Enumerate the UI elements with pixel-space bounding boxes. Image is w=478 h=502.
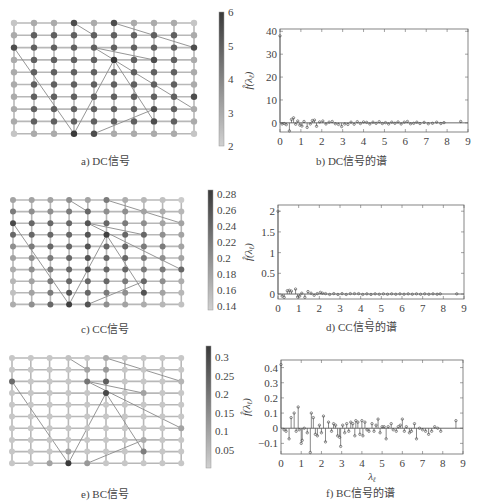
- x-axis-label: λℓ: [367, 470, 376, 484]
- graph-node: [85, 209, 91, 215]
- x-tick-label: 8: [444, 135, 450, 147]
- graph-node: [47, 355, 53, 361]
- graph-node: [103, 425, 109, 431]
- graph-node: [122, 197, 128, 203]
- graph-node: [178, 367, 184, 373]
- graph-node: [159, 414, 165, 420]
- graph-node: [51, 57, 57, 63]
- y-tick-label: 1.5: [261, 226, 275, 238]
- graph-node: [65, 414, 71, 420]
- graph-node: [31, 57, 37, 63]
- axes-frame: [281, 360, 463, 454]
- graph-node: [171, 69, 177, 75]
- graph-node: [91, 94, 97, 100]
- graph-node: [160, 209, 166, 215]
- x-tick-label: 0: [278, 457, 284, 469]
- graph-node: [31, 81, 37, 87]
- graph-node: [9, 390, 15, 396]
- graph-node: [104, 255, 110, 261]
- graph-node: [84, 402, 90, 408]
- x-tick-label: 4: [358, 302, 364, 314]
- graph-node: [104, 243, 110, 249]
- graph-node: [122, 278, 128, 284]
- graph-node: [104, 290, 110, 296]
- graph-node: [66, 232, 72, 238]
- x-tick-label: 9: [461, 302, 467, 314]
- graph-node: [122, 378, 128, 384]
- graph-node: [85, 267, 91, 273]
- x-tick-label: 1: [298, 457, 304, 469]
- graph-node: [104, 232, 110, 238]
- caption-d: d) CC信号的谱: [326, 318, 397, 334]
- graph-node: [85, 290, 91, 296]
- x-tick-label: 3: [337, 302, 343, 314]
- graph-node: [84, 414, 90, 420]
- graph-node: [104, 267, 110, 273]
- graph-node: [11, 44, 17, 50]
- graph-node: [131, 69, 137, 75]
- graph-node: [178, 414, 184, 420]
- graph-node: [66, 209, 72, 215]
- graph-node: [47, 378, 53, 384]
- x-tick-label: 2: [319, 135, 325, 147]
- graph-node: [31, 106, 37, 112]
- graph-node: [10, 232, 16, 238]
- graph-node: [66, 290, 72, 296]
- graph-node: [131, 131, 137, 137]
- graph-node: [141, 425, 147, 431]
- graph-node: [47, 390, 53, 396]
- x-tick-label: 7: [420, 457, 426, 469]
- graph-node: [11, 94, 17, 100]
- graph-node: [28, 402, 34, 408]
- graph-node: [47, 437, 53, 443]
- y-axis-label: f̂(λℓ): [242, 71, 256, 89]
- graph-node: [66, 278, 72, 284]
- graph-node: [111, 44, 117, 50]
- graph-node: [85, 220, 91, 226]
- x-tick-label: 5: [379, 457, 385, 469]
- graph-node: [31, 69, 37, 75]
- graph-node: [11, 118, 17, 124]
- graph-node: [11, 20, 17, 26]
- graph-node: [159, 449, 165, 455]
- graph-node: [9, 402, 15, 408]
- graph-node: [141, 355, 147, 361]
- graph-node: [191, 44, 197, 50]
- graph-node: [159, 402, 165, 408]
- y-tick-label: 0.3: [264, 377, 278, 389]
- graph-node: [29, 290, 35, 296]
- graph-node: [141, 232, 147, 238]
- y-tick-label: 10: [266, 94, 278, 106]
- graph-node: [122, 209, 128, 215]
- graph-node: [171, 131, 177, 137]
- graph-node: [178, 355, 184, 361]
- colorbar-tick-label: 0.05: [215, 444, 235, 456]
- graph-node: [28, 437, 34, 443]
- graph-node: [84, 449, 90, 455]
- graph-node: [9, 460, 15, 466]
- y-axis: 010203040f̂(λℓ): [242, 25, 468, 129]
- stem-marker: [370, 293, 372, 295]
- colorbar-tick-label: 5: [228, 40, 234, 52]
- caption-c: c) CC信号: [81, 320, 129, 336]
- graph-node: [11, 57, 17, 63]
- graph-node: [91, 44, 97, 50]
- graph-node: [122, 414, 128, 420]
- graph-node: [160, 267, 166, 273]
- graph-node: [171, 44, 177, 50]
- graph-node: [178, 449, 184, 455]
- graph-node: [29, 267, 35, 273]
- graph-node: [66, 301, 72, 307]
- graph-node: [29, 220, 35, 226]
- graph-node: [65, 437, 71, 443]
- graph-node: [122, 437, 128, 443]
- graph-node: [141, 437, 147, 443]
- graph-node: [159, 437, 165, 443]
- x-tick-label: 1: [296, 302, 302, 314]
- graph-node: [29, 209, 35, 215]
- graph-node: [141, 378, 147, 384]
- graph-node: [51, 81, 57, 87]
- graph-node: [131, 20, 137, 26]
- graph-node: [171, 81, 177, 87]
- y-tick-label: 0.1: [264, 407, 278, 419]
